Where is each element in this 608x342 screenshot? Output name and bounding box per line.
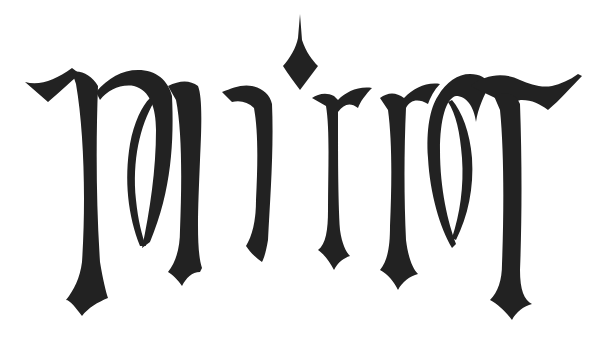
i-dot bbox=[283, 14, 318, 90]
letter-i bbox=[222, 85, 273, 262]
ambigram-artwork: mirror bbox=[0, 0, 608, 342]
letter-o bbox=[427, 74, 490, 248]
ambigram-svg bbox=[0, 0, 608, 342]
letter-r-final bbox=[470, 74, 582, 320]
letter-r-1 bbox=[312, 88, 372, 270]
letter-m bbox=[25, 68, 202, 316]
